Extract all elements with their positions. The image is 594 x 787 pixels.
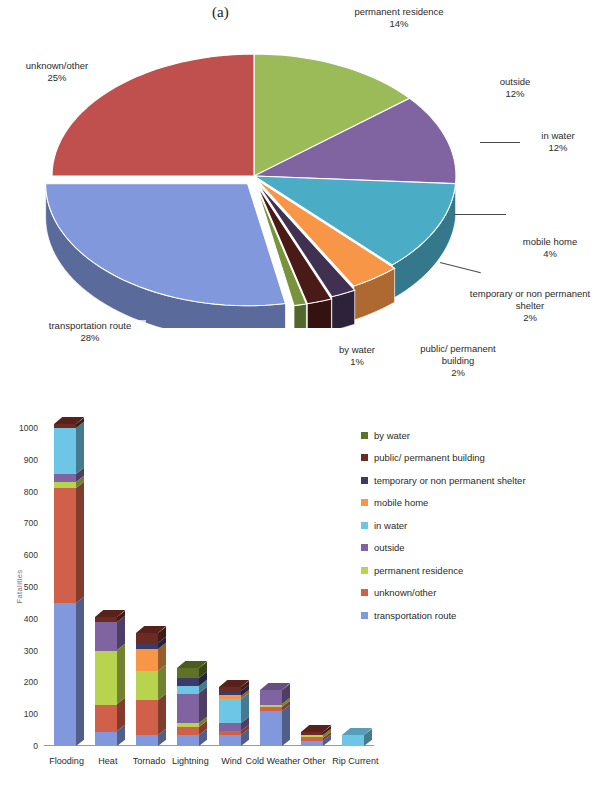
y-tick-800: 800 — [4, 487, 38, 497]
segment-temporary-or-non-permanent-shelter — [219, 691, 241, 696]
segment-unknown-other — [219, 731, 241, 735]
y-tick-200: 200 — [4, 677, 38, 687]
pie-top-faces — [46, 54, 456, 306]
segment-unknown-other — [177, 727, 199, 735]
segment-in-water — [342, 735, 364, 746]
legend-item-outside[interactable]: outside — [361, 537, 593, 560]
panel-a-pie-chart: (a) permanent residence 14% outside 12% … — [0, 0, 594, 400]
legend-item-public-permanent-building[interactable]: public/ permanent building — [361, 447, 593, 470]
x-tick-rip-current: Rip Current — [332, 756, 378, 766]
y-axis-tick-labels: 01002003004005006007008009001000 — [2, 428, 38, 746]
segment-permanent-residence — [95, 651, 117, 705]
y-tick-300: 300 — [4, 646, 38, 656]
y-tick-600: 600 — [4, 550, 38, 560]
pie-label-outside: outside 12% — [482, 76, 548, 100]
segment-temporary-or-non-permanent-shelter — [136, 643, 158, 649]
legend-label: public/ permanent building — [374, 452, 485, 463]
y-tick-1000: 1000 — [4, 423, 38, 433]
legend-label: in water — [374, 520, 407, 531]
segment-side-transportation-route — [282, 705, 290, 746]
pie-label-mobile-home: mobile home 4% — [512, 236, 588, 260]
legend-label: outside — [374, 542, 405, 553]
legend-label: by water — [374, 430, 410, 441]
pie-label-by-water: by water 1% — [326, 344, 388, 368]
legend-label: transportation route — [374, 610, 456, 621]
segment-public-permanent-building — [301, 732, 323, 735]
y-tick-400: 400 — [4, 614, 38, 624]
y-tick-500: 500 — [4, 582, 38, 592]
legend-item-transportation-route[interactable]: transportation route — [361, 604, 593, 627]
segment-transportation-route — [54, 603, 76, 746]
x-tick-tornado: Tornado — [133, 756, 166, 766]
segment-outside — [177, 694, 199, 724]
segment-unknown-other — [136, 700, 158, 735]
pie-label-public-building: public/ permanent building 2% — [416, 343, 500, 379]
legend-swatch-icon — [361, 567, 368, 574]
leader-line-in-water — [480, 142, 520, 143]
pie-label-permanent-residence: permanent residence 14% — [340, 6, 458, 30]
segment-side-unknown-other — [158, 694, 166, 735]
x-tick-flooding: Flooding — [49, 756, 84, 766]
segment-in-water — [219, 699, 241, 723]
y-tick-100: 100 — [4, 709, 38, 719]
segment-side-permanent-residence — [117, 644, 125, 704]
leader-line-mobile-home — [454, 214, 506, 215]
legend-item-temporary-or-non-permanent-shelter[interactable]: temporary or non permanent shelter — [361, 469, 593, 492]
segment-by-water — [177, 668, 199, 678]
x-tick-other: Other — [303, 756, 326, 766]
segment-unknown-other — [54, 488, 76, 602]
segment-in-water — [177, 686, 199, 694]
pie-label-transportation-route: transportation route 28% — [34, 320, 146, 344]
pie-label-unknown-other: unknown/other 25% — [8, 60, 106, 84]
segment-temporary-or-non-permanent-shelter — [177, 678, 199, 686]
segment-transportation-route — [95, 732, 117, 746]
segment-mobile-home — [136, 649, 158, 671]
legend-item-by-water[interactable]: by water — [361, 424, 593, 447]
legend-item-mobile-home[interactable]: mobile home — [361, 492, 593, 515]
legend-swatch-icon — [361, 544, 368, 551]
pie-side-by-water — [294, 304, 306, 328]
segment-unknown-other — [260, 707, 282, 711]
segment-side-in-water — [76, 422, 84, 474]
bar-chart-legend: by waterpublic/ permanent buildingtempor… — [361, 424, 593, 627]
y-tick-900: 900 — [4, 455, 38, 465]
legend-item-permanent-residence[interactable]: permanent residence — [361, 559, 593, 582]
segment-transportation-route — [301, 741, 323, 746]
x-tick-wind: Wind — [221, 756, 242, 766]
pie-label-in-water: in water 12% — [524, 130, 592, 154]
segment-outside — [260, 690, 282, 704]
segment-permanent-residence — [54, 482, 76, 488]
segment-public-permanent-building — [54, 424, 76, 428]
segment-side-unknown-other — [76, 482, 84, 603]
legend-label: temporary or non permanent shelter — [374, 475, 526, 486]
legend-swatch-icon — [361, 454, 368, 461]
segment-in-water — [54, 428, 76, 474]
x-axis-line — [44, 745, 374, 746]
segment-transportation-route — [260, 711, 282, 746]
legend-label: unknown/other — [374, 587, 436, 598]
segment-permanent-residence — [301, 735, 323, 738]
panel-b-bar-chart: (b) Fatalities 0100200300400500600700800… — [0, 400, 594, 787]
segment-permanent-residence — [177, 723, 199, 727]
legend-item-in-water[interactable]: in water — [361, 514, 593, 537]
legend-swatch-icon — [361, 589, 368, 596]
legend-label: mobile home — [374, 497, 428, 508]
x-tick-heat: Heat — [98, 756, 117, 766]
segment-outside — [54, 474, 76, 482]
legend-swatch-icon — [361, 432, 368, 439]
pie-label-temporary-shelter: temporary or non permanent shelter 2% — [466, 288, 594, 324]
segment-unknown-other — [301, 737, 323, 740]
x-tick-lightning: Lightning — [172, 756, 209, 766]
panel-a-label: (a) — [212, 4, 229, 21]
segment-permanent-residence — [136, 671, 158, 700]
legend-item-unknown-other[interactable]: unknown/other — [361, 582, 593, 605]
segment-transportation-route — [219, 735, 241, 746]
segment-unknown-other — [95, 705, 117, 732]
x-tick-cold-weather: Cold Weather — [245, 756, 300, 766]
legend-label: permanent residence — [374, 565, 463, 576]
segment-public-permanent-building — [219, 687, 241, 691]
legend-swatch-icon — [361, 522, 368, 529]
segment-outside — [219, 723, 241, 731]
legend-swatch-icon — [361, 477, 368, 484]
bar-plot-area — [44, 428, 374, 746]
